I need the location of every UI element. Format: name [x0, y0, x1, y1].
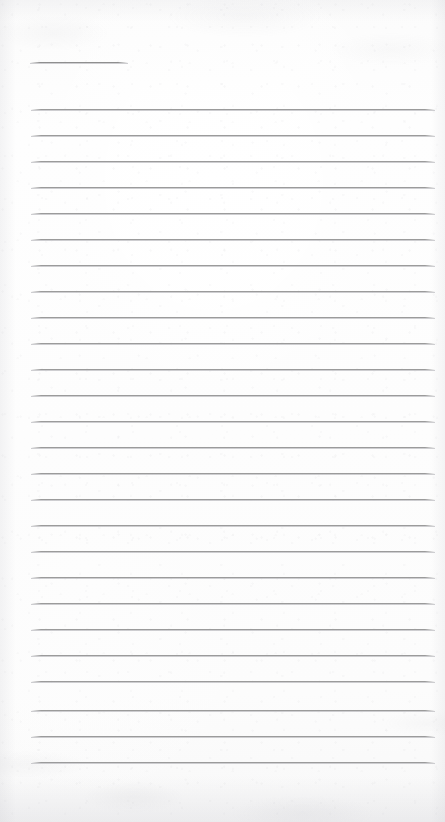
notepaper-page: [0, 0, 445, 822]
paper-edge-shadow: [0, 0, 445, 822]
